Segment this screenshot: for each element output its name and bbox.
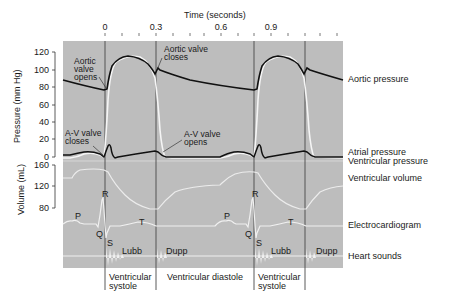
wiggers-diagram: Time (seconds) 0 0.3 0.6 0.9 Pressure (m…: [0, 0, 449, 304]
diastole-label: Ventricular diastole: [167, 273, 243, 282]
time-ticks: [105, 33, 337, 36]
lubb-label-1: Lubb: [122, 247, 142, 256]
ecg-r-wave-2: R: [252, 190, 259, 199]
ecg-p-wave-2: P: [224, 212, 230, 221]
ecg-t-wave-1: T: [139, 218, 145, 227]
pressure-tick-100: 100: [23, 66, 49, 75]
pressure-tick-60: 60: [23, 101, 49, 110]
volume-tick-120: 120: [23, 182, 49, 191]
time-tick-0-9: 0.9: [259, 23, 283, 32]
ventricular-volume-label: Ventricular volume: [348, 174, 422, 183]
pressure-tick-120: 120: [23, 48, 49, 57]
ventricular-pressure-label: Ventricular pressure: [348, 157, 428, 166]
pressure-tick-40: 40: [23, 118, 49, 127]
dupp-label-1: Dupp: [166, 247, 188, 256]
ecg-p-wave-1: P: [75, 212, 81, 221]
ecg-t-wave-2: T: [288, 218, 294, 227]
aortic-closes-label-2: closes: [164, 53, 188, 62]
ecg-r-wave-1: R: [102, 190, 109, 199]
time-tick-0: 0: [93, 23, 117, 32]
ecg-s-wave-2: S: [256, 239, 262, 248]
av-opens-label-2: opens: [184, 138, 207, 147]
dupp-label-2: Dupp: [316, 247, 338, 256]
time-tick-0-3: 0.3: [144, 23, 168, 32]
ecg-q-wave-1: Q: [96, 230, 103, 239]
ecg-label: Electrocardiogram: [348, 221, 421, 230]
volume-tick-160: 160: [23, 161, 49, 170]
ecg-q-wave-2: Q: [245, 230, 252, 239]
pressure-tick-20: 20: [23, 135, 49, 144]
ecg-s-wave-1: S: [107, 239, 113, 248]
heart-sounds-label: Heart sounds: [348, 252, 402, 261]
systole-label-1b: systole: [109, 282, 137, 291]
aortic-pressure-label: Aortic pressure: [348, 75, 409, 84]
pressure-axis: [52, 52, 55, 157]
lubb-label-2: Lubb: [271, 247, 291, 256]
volume-tick-80: 80: [23, 204, 49, 213]
pressure-tick-80: 80: [23, 83, 49, 92]
volume-axis: [52, 165, 55, 208]
aortic-opens-label-3: opens: [74, 73, 97, 82]
av-closes-label-2: closes: [65, 137, 89, 146]
pressure-axis-title: Pressure (mm Hg): [12, 69, 22, 143]
time-tick-0-6: 0.6: [209, 23, 233, 32]
systole-label-2b: systole: [258, 282, 286, 291]
time-axis-title: Time (seconds): [184, 11, 246, 20]
